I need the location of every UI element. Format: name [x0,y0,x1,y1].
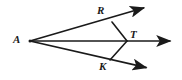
vertex-dot-a [29,40,32,43]
geometry-canvas [0,0,182,80]
geometry-figure: A R T K [0,0,182,80]
rays-group [30,8,171,68]
vertex-label-r: R [97,5,104,16]
vertex-label-t: T [130,29,137,40]
vertex-dots-group [29,40,32,43]
ray-a-r [30,8,144,41]
segment-k-t [110,41,127,60]
segment-r-t [112,22,127,41]
ray-a-k [30,41,147,68]
vertex-label-k: K [99,61,106,72]
vertex-label-a: A [13,34,20,45]
